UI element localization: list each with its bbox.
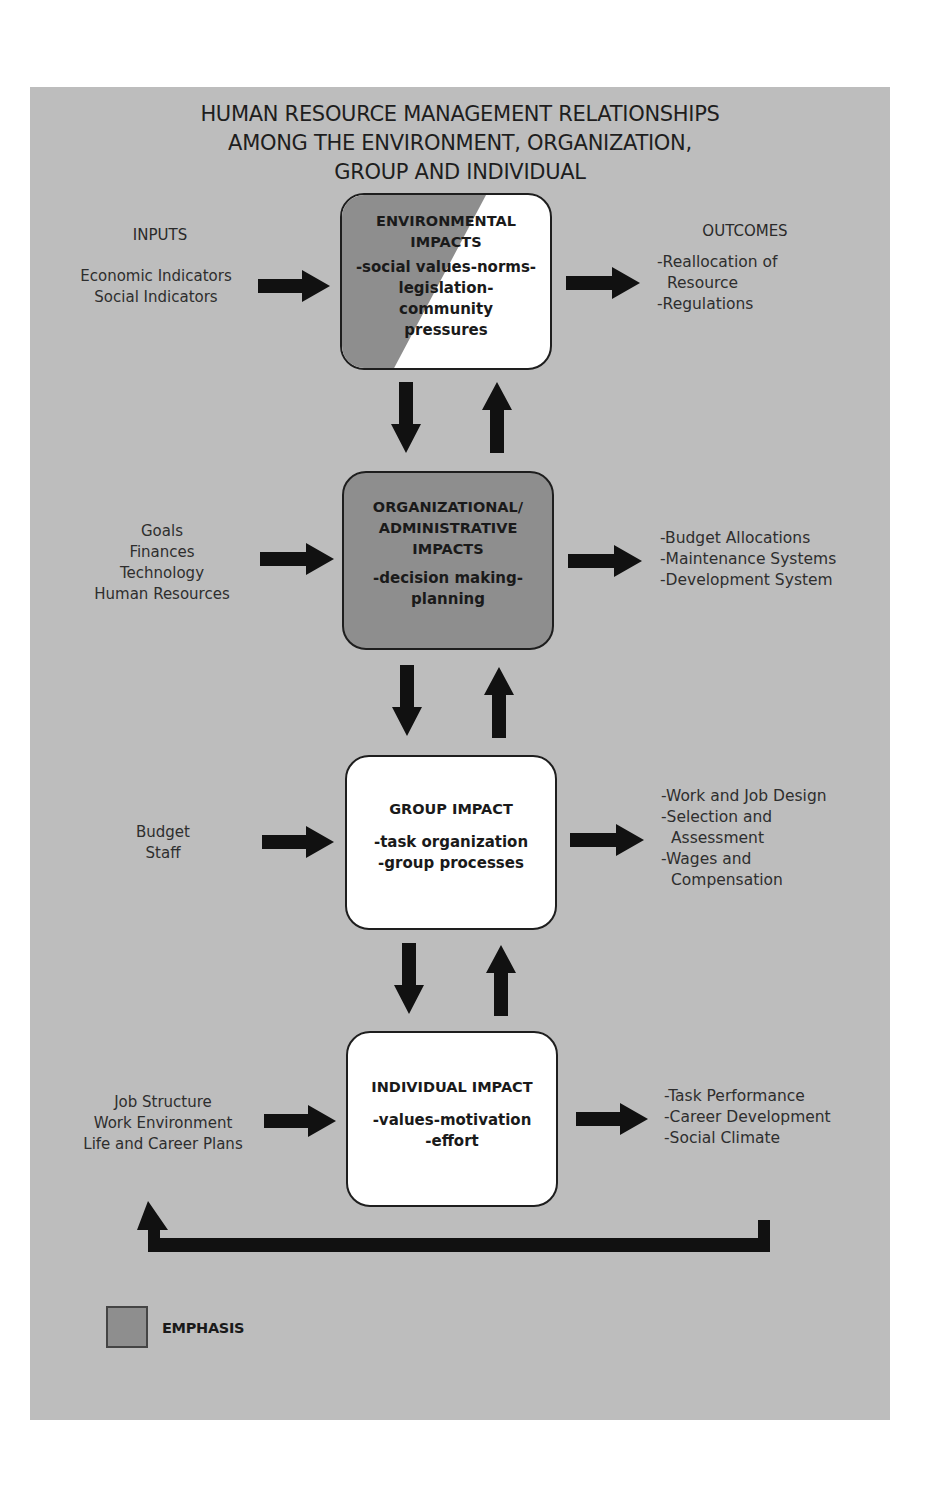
individual-impact-box: INDIVIDUAL IMPACT -values-motivation -ef… bbox=[346, 1031, 558, 1207]
outcome-item: -Career Development bbox=[664, 1107, 884, 1128]
input-item: Staff bbox=[63, 843, 263, 864]
organizational-outcomes: -Budget Allocations -Maintenance Systems… bbox=[660, 528, 880, 591]
outcome-item: Compensation bbox=[661, 870, 881, 891]
down-arrow-icon bbox=[393, 943, 425, 1015]
outcome-item: -Work and Job Design bbox=[661, 786, 881, 807]
down-arrow-icon bbox=[391, 665, 423, 737]
box-title-line: ORGANIZATIONAL/ bbox=[344, 497, 552, 518]
input-arrow-right-icon bbox=[262, 826, 336, 858]
emphasis-legend-swatch bbox=[106, 1306, 148, 1348]
box-detail-line: -values-motivation bbox=[348, 1110, 556, 1131]
up-arrow-icon bbox=[483, 667, 515, 739]
box-detail-line: pressures bbox=[342, 320, 550, 341]
input-item: Goals bbox=[62, 521, 262, 542]
outcome-item: -Task Performance bbox=[664, 1086, 884, 1107]
input-item: Life and Career Plans bbox=[63, 1134, 263, 1155]
box-detail-line: planning bbox=[344, 589, 552, 610]
environmental-impacts-box: ENVIRONMENTAL IMPACTS -social values-nor… bbox=[340, 193, 552, 370]
box-detail-line: -effort bbox=[348, 1131, 556, 1152]
box-title-line: IMPACTS bbox=[342, 232, 550, 253]
emphasis-legend-label: EMPHASIS bbox=[162, 1320, 244, 1336]
title-line-2: AMONG THE ENVIRONMENT, ORGANIZATION, bbox=[120, 129, 800, 158]
group-impact-box: GROUP IMPACT -task organization -group p… bbox=[345, 755, 557, 930]
outcome-item: -Budget Allocations bbox=[660, 528, 880, 549]
outcome-item: -Regulations bbox=[657, 294, 877, 315]
outcome-item: Assessment bbox=[661, 828, 881, 849]
individual-inputs: Job Structure Work Environment Life and … bbox=[63, 1092, 263, 1155]
diagram-title: HUMAN RESOURCE MANAGEMENT RELATIONSHIPS … bbox=[120, 100, 800, 187]
box-detail-line: -decision making- bbox=[344, 568, 552, 589]
box-title-line: ADMINISTRATIVE bbox=[344, 518, 552, 539]
individual-outcomes: -Task Performance -Career Development -S… bbox=[664, 1086, 884, 1149]
box-detail-line: -task organization bbox=[347, 832, 555, 853]
down-arrow-icon bbox=[390, 382, 422, 454]
title-line-1: HUMAN RESOURCE MANAGEMENT RELATIONSHIPS bbox=[120, 100, 800, 129]
outcome-item: Resource bbox=[657, 273, 877, 294]
title-line-3: GROUP AND INDIVIDUAL bbox=[120, 158, 800, 187]
inputs-header: INPUTS bbox=[120, 226, 200, 244]
group-inputs: Budget Staff bbox=[63, 822, 263, 864]
feedback-loop-arrow-icon bbox=[130, 1195, 780, 1260]
input-item: Job Structure bbox=[63, 1092, 263, 1113]
group-outcomes: -Work and Job Design -Selection and Asse… bbox=[661, 786, 881, 891]
box-title-line: GROUP IMPACT bbox=[347, 799, 555, 820]
input-item: Technology bbox=[62, 563, 262, 584]
organizational-impacts-box: ORGANIZATIONAL/ ADMINISTRATIVE IMPACTS -… bbox=[342, 471, 554, 650]
box-detail-line: legislation- bbox=[342, 278, 550, 299]
box-title-line: ENVIRONMENTAL bbox=[342, 211, 550, 232]
environmental-inputs: Economic Indicators Social Indicators bbox=[56, 266, 256, 308]
box-title-line: INDIVIDUAL IMPACT bbox=[348, 1077, 556, 1098]
outcome-arrow-right-icon bbox=[576, 1103, 650, 1135]
outcome-item: -Selection and bbox=[661, 807, 881, 828]
outcomes-header: OUTCOMES bbox=[690, 222, 800, 240]
box-detail-line: community bbox=[342, 299, 550, 320]
organizational-inputs: Goals Finances Technology Human Resource… bbox=[62, 521, 262, 605]
outcome-arrow-right-icon bbox=[566, 267, 642, 299]
input-item: Budget bbox=[63, 822, 263, 843]
input-item: Finances bbox=[62, 542, 262, 563]
outcome-item: -Social Climate bbox=[664, 1128, 884, 1149]
box-title-line: IMPACTS bbox=[344, 539, 552, 560]
box-detail-line: -group processes bbox=[347, 853, 555, 874]
outcome-item: -Reallocation of bbox=[657, 252, 877, 273]
outcome-arrow-right-icon bbox=[570, 824, 646, 856]
box-detail-line: -social values-norms- bbox=[342, 257, 550, 278]
up-arrow-icon bbox=[485, 945, 517, 1017]
input-arrow-right-icon bbox=[264, 1105, 338, 1137]
environmental-outcomes: -Reallocation of Resource -Regulations bbox=[657, 252, 877, 315]
input-item: Social Indicators bbox=[56, 287, 256, 308]
up-arrow-icon bbox=[481, 382, 513, 454]
outcome-item: -Development System bbox=[660, 570, 880, 591]
outcome-arrow-right-icon bbox=[568, 545, 644, 577]
input-arrow-right-icon bbox=[258, 270, 332, 302]
input-item: Economic Indicators bbox=[56, 266, 256, 287]
input-item: Work Environment bbox=[63, 1113, 263, 1134]
input-item: Human Resources bbox=[62, 584, 262, 605]
input-arrow-right-icon bbox=[260, 543, 336, 575]
outcome-item: -Maintenance Systems bbox=[660, 549, 880, 570]
outcome-item: -Wages and bbox=[661, 849, 881, 870]
